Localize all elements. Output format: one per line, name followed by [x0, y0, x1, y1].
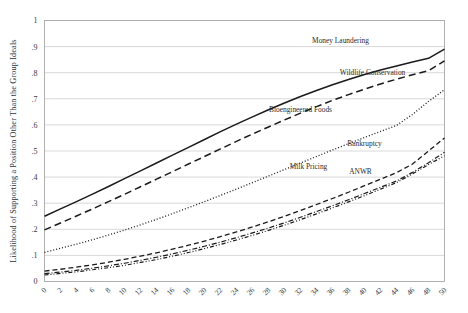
x-axis-tick-label: 28 [261, 285, 273, 297]
series-line-wildlife-conservation [45, 61, 445, 230]
series-label-money-laundering: Money Laundering [312, 36, 369, 45]
y-axis-tick-label: .9 [32, 43, 38, 52]
x-axis-tick-label: 4 [71, 285, 80, 294]
y-axis-title: Likelihood of Supporting a Position Othe… [9, 39, 18, 262]
x-axis-tick-label: 36 [325, 285, 337, 297]
chart-figure: 0.1.2.3.4.5.6.7.8.91 0246810121416182022… [0, 0, 468, 313]
series-label-bankruptcy: Bankruptcy [347, 139, 382, 148]
y-axis-tick-label: .5 [32, 147, 38, 156]
x-axis-tick-label: 24 [229, 285, 241, 297]
series-line-bankruptcy [45, 138, 445, 271]
y-axis-tick-label: .3 [32, 199, 38, 208]
series-labels-group: Money LaunderingWildlife ConservationBio… [269, 36, 406, 177]
x-axis-tick-label: 2 [55, 285, 64, 294]
y-axis-tick-label: .8 [32, 69, 38, 78]
x-axis-tick-label: 8 [103, 285, 112, 294]
x-axis-ticks-group: 0246810121416182022242628303234363840424… [39, 285, 448, 297]
gridlines-group [45, 47, 445, 256]
series-label-anwr: ANWR [349, 167, 372, 176]
series-line-anwr [45, 156, 445, 275]
x-axis-tick-label: 30 [277, 285, 289, 297]
series-line-bioengineered-foods [45, 90, 445, 253]
x-axis-tick-label: 12 [133, 285, 145, 297]
y-axis-tick-label: 1 [34, 16, 38, 25]
y-axis-tick-label: .6 [32, 121, 38, 130]
x-axis-tick-label: 14 [149, 285, 161, 297]
x-axis-tick-label: 26 [245, 285, 257, 297]
x-axis-tick-label: 38 [341, 285, 353, 297]
x-axis-tick-label: 48 [421, 285, 433, 297]
x-axis-tick-label: 34 [309, 285, 321, 297]
x-axis-tick-label: 10 [117, 285, 129, 297]
x-axis-tick-label: 6 [87, 285, 96, 294]
x-axis-tick-label: 16 [165, 285, 177, 297]
x-axis-tick-label: 44 [389, 285, 401, 297]
x-axis-tick-label: 22 [213, 285, 225, 297]
line-chart: 0.1.2.3.4.5.6.7.8.91 0246810121416182022… [0, 0, 468, 313]
x-axis-tick-label: 40 [357, 285, 369, 297]
series-label-milk-pricing: Milk Pricing [290, 162, 328, 171]
x-axis-tick-label: 0 [39, 285, 48, 294]
x-axis-tick-label: 18 [181, 285, 193, 297]
y-axis-tick-label: .4 [32, 173, 38, 182]
y-axis-tick-label: 0 [34, 277, 38, 286]
y-axis-tick-label: .7 [32, 95, 38, 104]
y-axis-ticks-group: 0.1.2.3.4.5.6.7.8.91 [32, 16, 38, 286]
y-axis-tick-label: .1 [32, 251, 38, 260]
y-axis-tick-label: .2 [32, 225, 38, 234]
x-axis-tick-label: 42 [373, 285, 385, 297]
series-label-bioengineered-foods: Bioengineered Foods [269, 105, 332, 114]
x-axis-tick-label: 50 [437, 285, 449, 297]
x-axis-tick-label: 46 [405, 285, 417, 297]
x-axis-tick-label: 20 [197, 285, 209, 297]
series-label-wildlife-conservation: Wildlife Conservation [340, 68, 406, 77]
x-axis-tick-label: 32 [293, 285, 305, 297]
series-lines-group [45, 49, 445, 275]
